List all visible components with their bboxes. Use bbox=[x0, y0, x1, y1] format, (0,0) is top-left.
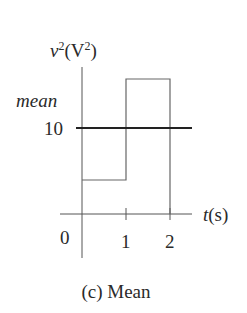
x-tick-label-1: 1 bbox=[121, 231, 131, 252]
series-v-squared bbox=[82, 79, 170, 214]
mean-annotation: mean bbox=[16, 90, 57, 111]
x-tick-label-0: 0 bbox=[60, 227, 70, 248]
chart: v2(V2) mean 10 0 1 2 t(s) (c) Mean bbox=[0, 0, 247, 313]
figure-caption: (c) Mean bbox=[81, 281, 151, 303]
y-tick-label-10: 10 bbox=[44, 118, 63, 139]
x-axis-label: t(s) bbox=[203, 204, 228, 226]
x-tick-label-2: 2 bbox=[165, 231, 175, 252]
y-axis-label: v2(V2) bbox=[50, 39, 97, 62]
